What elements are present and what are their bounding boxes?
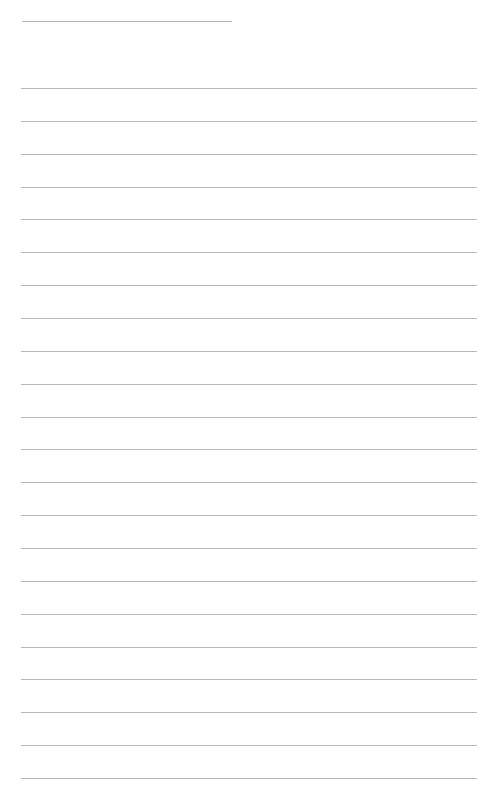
header-name-line [22,21,232,22]
ruled-line [21,154,477,155]
ruled-line [21,351,477,352]
ruled-line [21,745,477,746]
ruled-line [21,318,477,319]
ruled-line [21,219,477,220]
ruled-line [21,121,477,122]
lined-paper-page [0,0,498,806]
ruled-line [21,581,477,582]
ruled-line [21,679,477,680]
ruled-line [21,712,477,713]
ruled-line [21,647,477,648]
ruled-line [21,187,477,188]
ruled-line [21,548,477,549]
ruled-line [21,614,477,615]
ruled-line [21,285,477,286]
ruled-line [21,515,477,516]
ruled-line [21,384,477,385]
ruled-line [21,778,477,779]
ruled-line [21,449,477,450]
ruled-line [21,252,477,253]
ruled-line [21,88,477,89]
ruled-line [21,482,477,483]
ruled-line [21,417,477,418]
